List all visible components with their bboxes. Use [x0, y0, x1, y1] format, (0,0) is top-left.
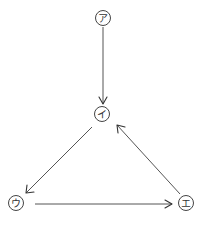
- edge-i-to-u: [26, 127, 92, 193]
- edge-a-to-i: [99, 27, 107, 104]
- node-a: ア: [96, 11, 111, 26]
- node-u: ウ: [9, 196, 24, 211]
- directed-graph: ア イ ウ エ: [0, 0, 213, 231]
- node-e: エ: [179, 196, 194, 211]
- node-label: エ: [181, 198, 191, 209]
- edge-e-to-i: [117, 125, 180, 194]
- node-label: ウ: [11, 198, 21, 209]
- node-label: イ: [97, 109, 107, 120]
- node-i: イ: [95, 107, 110, 122]
- node-label: ア: [98, 13, 108, 24]
- edge-u-to-e: [35, 200, 172, 208]
